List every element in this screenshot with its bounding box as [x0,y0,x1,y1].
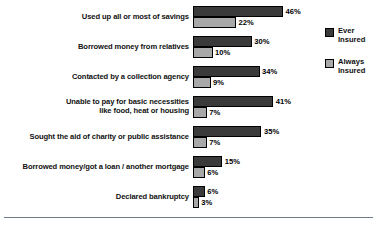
category-group: Unable to pay for basic necessities like… [0,96,377,118]
category-label: Contacted by a collection agency [0,73,193,82]
bar-always-insured [193,47,213,58]
category-group: Declared bankruptcy6%3% [0,186,377,208]
category-group: Borrowed money from relatives30%10% [0,36,377,58]
bottom-divider [4,217,373,218]
legend-item-ever-insured: Ever Insured [325,27,377,44]
bar-always-insured [193,167,205,178]
bar-row: 6% [193,186,377,197]
bar-row: 41% [193,96,377,107]
bar-row: 15% [193,156,377,167]
bar-value-label: 15% [222,158,240,166]
bar-ever-insured [193,156,222,167]
bar-ever-insured [193,186,205,197]
bar-row: 6% [193,167,377,178]
legend-item-always-insured: Always Insured [325,58,377,75]
bar-value-label: 10% [213,49,231,57]
bar-row: 46% [193,6,377,17]
bar-value-label: 22% [236,19,254,27]
category-label: Unable to pay for basic necessities like… [0,98,193,115]
category-label: Sought the aid of charity or public assi… [0,133,193,142]
category-label: Borrowed money/got a loan / another mort… [0,163,193,172]
bar-ever-insured [193,66,260,77]
bar-value-label: 41% [273,98,291,106]
bar-value-label: 46% [283,8,301,16]
bar-row: 3% [193,197,377,208]
legend-label: Ever Insured [338,27,365,44]
bar-ever-insured [193,36,252,47]
bar-group: 15%6% [193,156,377,178]
chart-legend: Ever InsuredAlways Insured [325,27,377,89]
bar-always-insured [193,107,207,118]
category-group: Borrowed money/got a loan / another mort… [0,156,377,178]
category-group: Sought the aid of charity or public assi… [0,126,377,148]
bar-value-label: 3% [199,199,212,207]
legend-label: Always Insured [338,58,365,75]
bar-always-insured [193,137,207,148]
category-label: Declared bankruptcy [0,193,193,202]
bar-value-label: 30% [252,38,270,46]
bar-value-label: 35% [261,128,279,136]
bar-group: 41%7% [193,96,377,118]
bar-group: 35%7% [193,126,377,148]
category-group: Used up all or most of savings46%22% [0,6,377,28]
category-group: Contacted by a collection agency34%9% [0,66,377,88]
bar-group: 6%3% [193,186,377,208]
category-label: Used up all or most of savings [0,13,193,22]
bar-always-insured [193,17,236,28]
bar-value-label: 34% [260,68,278,76]
plot-area: Used up all or most of savings46%22%Borr… [0,6,377,208]
legend-swatch-icon [325,28,334,37]
bar-value-label: 6% [205,169,218,177]
bar-ever-insured [193,96,273,107]
bar-ever-insured [193,6,283,17]
legend-swatch-icon [325,59,334,68]
bar-chart: Used up all or most of savings46%22%Borr… [0,0,377,231]
bar-ever-insured [193,126,261,137]
bar-row: 7% [193,137,377,148]
bar-value-label: 7% [207,139,220,147]
category-label: Borrowed money from relatives [0,43,193,52]
bar-group: 46%22% [193,6,377,28]
bar-value-label: 6% [205,188,218,196]
bar-row: 35% [193,126,377,137]
bar-always-insured [193,77,211,88]
bar-value-label: 7% [207,109,220,117]
bar-row: 7% [193,107,377,118]
bar-value-label: 9% [211,79,224,87]
